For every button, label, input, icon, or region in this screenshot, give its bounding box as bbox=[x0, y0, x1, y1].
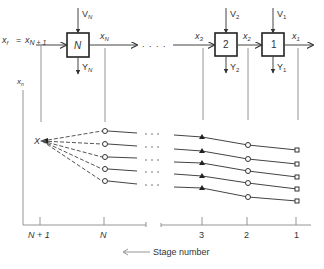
input-label-xn1: xN + 1 bbox=[24, 35, 47, 46]
x-3-label: x3 bbox=[194, 31, 204, 42]
plot-ellipsis bbox=[145, 133, 158, 185]
trajectory-plot: xn N + 1 N 3 2 1 Stage number X bbox=[16, 77, 311, 257]
y-2-label: Y2 bbox=[230, 62, 240, 73]
stage-box-1-label: 1 bbox=[271, 39, 277, 50]
tick-label-n-plus-1: N + 1 bbox=[28, 230, 50, 240]
input-label: xf bbox=[1, 35, 10, 46]
top-ellipsis: . . . . bbox=[142, 39, 167, 49]
tick-label-3: 3 bbox=[199, 230, 204, 240]
start-point-label: X bbox=[33, 136, 41, 146]
y-axis-label: xn bbox=[16, 77, 24, 87]
stage-3-markers bbox=[199, 134, 205, 190]
x-axis-caption: Stage number bbox=[153, 247, 210, 257]
stage-box-2-label: 2 bbox=[223, 39, 229, 50]
stage-n-markers bbox=[103, 129, 108, 184]
top-flow: xf = xN + 1 N VN YN xN . . . . x3 2 V2 Y… bbox=[1, 8, 313, 74]
x-1-label: x1 bbox=[291, 31, 300, 42]
stage-box-n-label: N bbox=[74, 40, 82, 51]
v-n-label: VN bbox=[82, 9, 93, 20]
y-1-label: Y1 bbox=[277, 62, 287, 73]
tick-label-2: 2 bbox=[244, 230, 249, 240]
tick-label-1: 1 bbox=[294, 230, 299, 240]
y-n-label: YN bbox=[82, 62, 93, 73]
multistage-diagram: xf = xN + 1 N VN YN xN . . . . x3 2 V2 Y… bbox=[0, 0, 324, 269]
stage-2-markers bbox=[246, 143, 251, 200]
equals-sign: = bbox=[16, 35, 21, 45]
v-1-label: V1 bbox=[277, 9, 287, 20]
v-2-label: V2 bbox=[230, 9, 240, 20]
x-2-label: x2 bbox=[242, 31, 252, 42]
stage-1-markers bbox=[295, 148, 299, 203]
x-n-label: xN bbox=[99, 31, 110, 42]
tick-label-n: N bbox=[100, 230, 107, 240]
